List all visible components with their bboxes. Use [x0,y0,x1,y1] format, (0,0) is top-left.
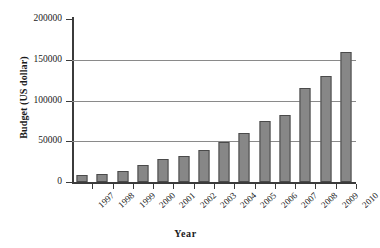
bar [117,171,128,182]
y-axis-label: 0 [2,177,62,187]
bar-slot [72,19,92,182]
bar [178,156,189,182]
bar [97,174,108,182]
x-axis-label: 2002 [198,191,217,210]
bar-slot [234,19,254,182]
y-axis-label: 100000 [2,96,62,106]
x-axis-tick [234,184,235,189]
bar [340,52,351,182]
x-axis-label: 2004 [239,191,258,210]
x-axis-title: Year [0,228,371,239]
bar-slot [92,19,112,182]
bar-slot [113,19,133,182]
bar [320,76,331,182]
x-axis-tick [356,184,357,189]
y-axis-label: 50000 [2,136,62,146]
x-axis-tick [255,184,256,189]
y-axis-label: 200000 [2,14,62,24]
x-axis-label: 2007 [300,191,319,210]
x-axis-tick [275,184,276,189]
x-axis-label: 1998 [117,191,136,210]
x-axis-label: 1999 [138,191,157,210]
bar [239,133,250,182]
x-axis-tick [173,184,174,189]
bar-slot [133,19,153,182]
bar-slot [336,19,356,182]
bar [259,121,270,182]
x-axis-label: 2000 [158,191,177,210]
x-axis-label: 2006 [280,191,299,210]
bar [198,150,209,182]
bar-slot [214,19,234,182]
x-axis-tick [214,184,215,189]
bar-slot [194,19,214,182]
x-axis-label: 2003 [219,191,238,210]
x-axis-label: 2009 [340,191,359,210]
bar [219,142,230,182]
bar-slot [275,19,295,182]
bar [300,88,311,182]
y-axis-label: 150000 [2,55,62,65]
bar-slot [295,19,315,182]
x-axis-label: 2001 [178,191,197,210]
bar-slot [315,19,335,182]
x-axis-tick [133,184,134,189]
x-axis-tick [295,184,296,189]
bar-slot [173,19,193,182]
x-axis-tick [315,184,316,189]
x-axis-tick [113,184,114,189]
y-axis-tick [66,182,72,183]
bar [77,175,88,182]
x-axis-label: 1997 [97,191,116,210]
bar-slot [153,19,173,182]
x-axis-label: 2008 [320,191,339,210]
x-axis-tick [92,184,93,189]
bar-series [72,19,356,182]
x-axis-tick [336,184,337,189]
x-axis-label: 2010 [361,191,380,210]
bar [137,165,148,182]
bar-slot [255,19,275,182]
bar [158,159,169,182]
x-axis-tick [153,184,154,189]
bar [279,115,290,182]
x-axis-tick [194,184,195,189]
x-axis-label: 2005 [259,191,278,210]
